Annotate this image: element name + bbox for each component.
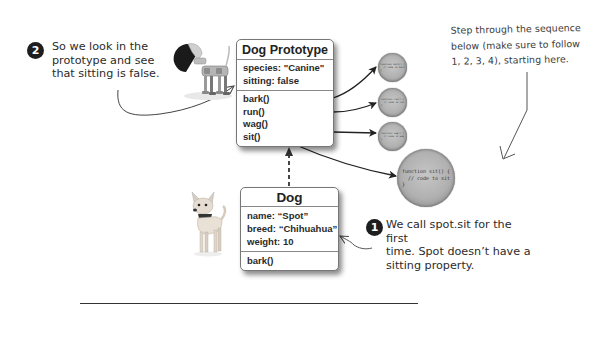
- prototype-methods: bark() run() wag() sit(): [237, 90, 333, 146]
- arrow-run: [333, 103, 376, 112]
- dog-object-box: Dog name: “Spot” breed: “Chihuahua” weig…: [240, 187, 339, 271]
- arrow-wag: [333, 132, 376, 133]
- hand-note-arrow: [504, 72, 527, 158]
- arrow-bark: [333, 67, 376, 98]
- step1-pointer: [340, 236, 372, 249]
- prototype-diagram: Dog Prototype species: "Canine" sitting:…: [0, 0, 614, 337]
- callout-line: We call spot.sit for the first: [386, 218, 536, 245]
- dog-prototype-box: Dog Prototype species: "Canine" sitting:…: [236, 39, 334, 147]
- function-bark-circle: function bark() { // code to bark }: [378, 53, 407, 82]
- dog-property: breed: “Chihuahua”: [247, 222, 332, 235]
- function-sit-circle: function sit() { // code to sit }: [397, 149, 455, 207]
- chihuahua-dog-icon: [186, 192, 232, 258]
- dog-methods: bark(): [241, 251, 338, 270]
- function-wag-circle: function wag() { // code to wag }: [378, 122, 407, 151]
- prototype-property: sitting: false: [243, 75, 327, 88]
- callout-line: time. Spot doesn’t have a: [386, 245, 536, 259]
- callout-line: So we look in the: [52, 40, 162, 54]
- prototype-method: run(): [243, 106, 327, 119]
- dog-title: Dog: [241, 188, 338, 207]
- prototype-property: species: "Canine": [243, 62, 327, 75]
- callout-line: prototype and see: [52, 54, 162, 68]
- dog-property: weight: 10: [247, 235, 332, 248]
- function-run-circle: function run() { // code to run }: [378, 88, 407, 117]
- prototype-method: wag(): [243, 118, 327, 131]
- prototype-method: bark(): [243, 93, 327, 106]
- step-1-badge: 1: [366, 219, 383, 236]
- callout-line: that sitting is false.: [52, 67, 162, 81]
- dog-properties: name: “Spot” breed: “Chihuahua” weight: …: [241, 207, 338, 251]
- note-line: 1, 2, 3, 4), starting here.: [451, 50, 614, 69]
- step-1-callout: We call spot.sit for the first time. Spo…: [386, 218, 536, 272]
- step-2-callout: So we look in the prototype and see that…: [52, 40, 162, 81]
- callout-line: sitting property.: [386, 259, 536, 273]
- section-divider: [80, 303, 418, 304]
- prototype-properties: species: "Canine" sitting: false: [237, 60, 333, 90]
- handwritten-instruction-note: Step through the sequence below (make su…: [451, 19, 614, 69]
- prototype-title: Dog Prototype: [237, 40, 333, 60]
- robot-dog-icon: [168, 42, 236, 104]
- prototype-method: sit(): [243, 131, 327, 144]
- dog-method: bark(): [247, 254, 332, 267]
- arrow-sit: [296, 145, 396, 176]
- step-2-badge: 2: [27, 42, 44, 59]
- dog-property: name: “Spot”: [247, 209, 332, 222]
